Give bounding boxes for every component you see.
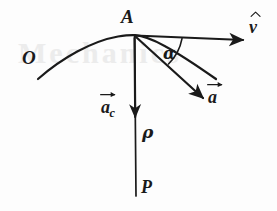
label-angle-alpha: α (163, 46, 175, 62)
acceleration-base-letter: a (208, 88, 217, 106)
label-radius-rho: ρ (142, 124, 153, 141)
label-point-p: P (141, 178, 152, 196)
label-acceleration-vector: a (208, 88, 217, 106)
centripetal-base-letter: a (101, 98, 110, 116)
velocity-base-letter: v (249, 18, 257, 36)
centripetal-subscript: c (110, 106, 115, 120)
diagram-canvas (0, 0, 277, 211)
physics-diagram: Mechanics A O P α (0, 0, 277, 211)
label-point-o: O (22, 48, 36, 67)
label-velocity-unit-vector: v (249, 18, 257, 36)
trajectory-curve (38, 35, 216, 79)
label-centripetal-acceleration-vector: ac (101, 98, 115, 116)
centripetal-acceleration-vector (135, 38, 136, 117)
label-point-a: A (121, 7, 134, 26)
